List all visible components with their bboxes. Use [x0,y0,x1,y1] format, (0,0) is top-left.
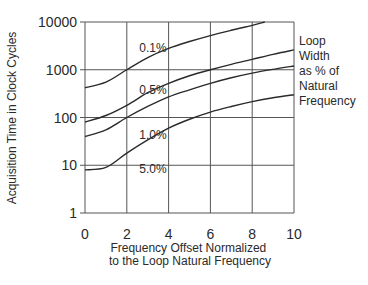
x-axis-label-line-2: to the Loop Natural Frequency [109,254,271,268]
curve-01 [85,22,265,88]
legend-title-line: Loop [299,34,326,48]
y-tick-label: 1 [69,205,77,221]
legend-title-line: Natural [299,79,338,93]
legend-title-line: as % of [299,64,340,78]
y-axis-label: Acquisition Time in Clock Cycles [5,32,19,205]
x-tick-label: 0 [81,226,89,242]
grid [80,22,294,213]
curve-label: 1.0% [139,128,167,142]
x-tick-label: 4 [165,226,173,242]
curve-label: 0.5% [139,83,167,97]
curve-50 [85,95,294,170]
x-tick-label: 6 [207,226,215,242]
curve-05 [85,50,294,122]
y-tick-label: 100 [54,110,78,126]
y-tick-label: 10000 [38,14,77,30]
curves [85,22,294,170]
x-tick-label: 8 [248,226,256,242]
x-axis-label-line-1: Frequency Offset Normalized [110,241,266,255]
curve-label: 0.1% [139,41,167,55]
curve-label: 5.0% [139,162,167,176]
acquisition-time-chart: 0.1%0.5%1.0%5.0% 110100100010000 0246810… [0,0,368,285]
y-tick-label: 10 [61,157,77,173]
y-tick-labels: 110100100010000 [38,14,77,221]
legend-title: LoopWidthas % ofNaturalFrequency [299,34,356,108]
legend-title-line: Frequency [299,94,356,108]
x-axis-label: Frequency Offset Normalized to the Loop … [109,241,271,268]
x-tick-label: 2 [123,226,131,242]
x-tick-labels: 0246810 [81,226,302,242]
y-tick-label: 1000 [46,62,77,78]
x-tick-label: 10 [286,226,302,242]
legend-title-line: Width [299,49,330,63]
